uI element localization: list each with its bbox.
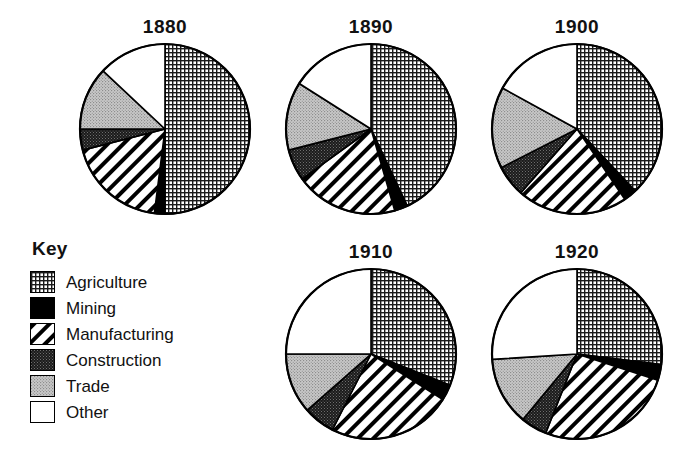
- pie-1900: [492, 44, 662, 214]
- pie-1910: [286, 269, 456, 439]
- legend-label-other: Other: [66, 404, 109, 421]
- swatch-mining-icon: [30, 297, 55, 319]
- pie-title-1910: 1910: [311, 241, 431, 263]
- pie-title-1890: 1890: [311, 16, 431, 38]
- pie-title-1900: 1900: [517, 16, 637, 38]
- swatch-construction-icon: [30, 349, 55, 371]
- legend-label-construction: Construction: [66, 352, 161, 369]
- legend: Key AgricultureMiningManufacturingConstr…: [30, 238, 174, 425]
- legend-item-agriculture: Agriculture: [30, 269, 174, 295]
- legend-label-mining: Mining: [66, 300, 116, 317]
- legend-label-manufacturing: Manufacturing: [66, 326, 174, 343]
- swatch-manufacturing-icon: [30, 323, 55, 345]
- legend-heading: Key: [32, 238, 174, 260]
- pie-title-1880: 1880: [105, 16, 225, 38]
- swatch-agriculture-icon: [30, 271, 55, 293]
- pie-slice-1920-other: [492, 269, 577, 359]
- pie-1890: [286, 44, 456, 214]
- pie-1880: [80, 44, 250, 214]
- legend-item-manufacturing: Manufacturing: [30, 321, 174, 347]
- swatch-other-icon: [30, 401, 55, 423]
- legend-item-other: Other: [30, 399, 174, 425]
- legend-item-construction: Construction: [30, 347, 174, 373]
- pie-1920: [492, 269, 662, 439]
- legend-label-trade: Trade: [66, 378, 110, 395]
- swatch-trade-icon: [30, 375, 55, 397]
- legend-item-mining: Mining: [30, 295, 174, 321]
- legend-label-agriculture: Agriculture: [66, 274, 147, 291]
- pie-title-1920: 1920: [517, 241, 637, 263]
- pie-chart-figure: 1880 1890 1900 1910 1920 Key Agriculture…: [0, 0, 679, 456]
- legend-item-trade: Trade: [30, 373, 174, 399]
- pie-slice-1920-agriculture: [577, 269, 662, 365]
- pie-slice-1910-other: [286, 269, 371, 354]
- pie-slice-1880-agriculture: [165, 44, 250, 214]
